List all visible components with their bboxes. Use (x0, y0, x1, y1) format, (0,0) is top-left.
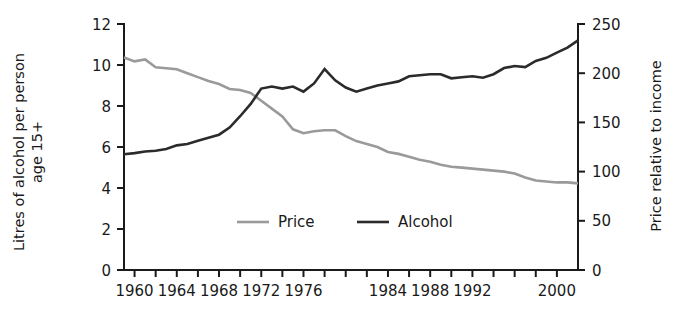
legend-label-price: Price (278, 213, 315, 231)
series-line-alcohol (124, 40, 578, 154)
y-axis-right-title: Price relative to income (648, 60, 664, 232)
y-axis-left-tick-label: 0 (101, 262, 111, 280)
y-axis-right-tick-label: 50 (592, 212, 611, 230)
y-axis-left-tick-label: 12 (92, 16, 111, 34)
y-axis-left-tick-label: 6 (101, 139, 111, 157)
y-axis-left-ticks: 024681012 (92, 16, 124, 280)
x-axis-tick-label: 1984 (369, 282, 407, 300)
y-axis-right-tick-label: 250 (592, 16, 621, 34)
y-axis-left-tick-label: 8 (101, 98, 111, 116)
x-axis-tick-label: 1964 (158, 282, 196, 300)
y-axis-left-tick-label: 10 (92, 57, 111, 75)
chart-figure: Litres of alcohol per person age 15+ Pri… (0, 0, 673, 327)
x-axis-ticks (135, 270, 557, 277)
series-lines (124, 40, 578, 183)
x-axis-tick-label: 1968 (200, 282, 238, 300)
dual-axis-line-chart: Litres of alcohol per person age 15+ Pri… (0, 0, 673, 327)
y-axis-right-tick-label: 0 (592, 262, 602, 280)
x-axis-tick-label: 1960 (115, 282, 153, 300)
y-axis-left-title-line1: Litres of alcohol per person (11, 53, 27, 251)
series-line-price (124, 57, 578, 183)
x-axis-tick-labels: 196019641968197219761984198819922000 (115, 282, 576, 300)
y-axis-right-ticks: 050100150200250 (578, 16, 621, 280)
y-axis-right-tick-label: 100 (592, 163, 621, 181)
x-axis-tick-label: 1972 (242, 282, 280, 300)
x-axis-tick-label: 1976 (284, 282, 322, 300)
x-axis-tick-label: 2000 (538, 282, 576, 300)
y-axis-right-tick-label: 200 (592, 65, 621, 83)
legend-label-alcohol: Alcohol (398, 213, 453, 231)
chart-legend: PriceAlcohol (237, 213, 453, 231)
y-axis-left-tick-label: 4 (101, 180, 111, 198)
y-axis-left-title-group: Litres of alcohol per person age 15+ (11, 53, 45, 251)
y-axis-left-title-line2: age 15+ (29, 121, 45, 183)
y-axis-right-tick-label: 150 (592, 114, 621, 132)
y-axis-left-tick-label: 2 (101, 221, 111, 239)
x-axis-tick-label: 1992 (453, 282, 491, 300)
x-axis-tick-label: 1988 (411, 282, 449, 300)
